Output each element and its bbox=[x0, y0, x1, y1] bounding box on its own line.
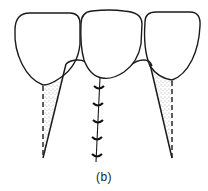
right-tooth-crown bbox=[145, 12, 201, 80]
left-tooth-crown bbox=[15, 13, 80, 85]
stitch-2 bbox=[93, 103, 103, 106]
stitch-5 bbox=[92, 154, 102, 157]
dental-diagram bbox=[0, 0, 208, 191]
figure-caption: (b) bbox=[0, 170, 208, 184]
incision-line bbox=[96, 78, 100, 162]
stitch-1 bbox=[94, 86, 104, 89]
middle-tooth-crown bbox=[81, 10, 142, 78]
